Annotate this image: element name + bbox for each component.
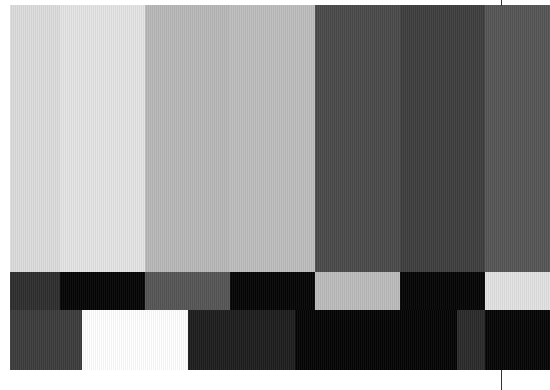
middle-bar-2 xyxy=(60,272,145,310)
registration-line-bottom xyxy=(501,370,502,390)
top-bar-5 xyxy=(315,5,400,272)
bottom-bar-2 xyxy=(82,310,188,370)
middle-bars-row xyxy=(10,272,550,310)
middle-bar-7 xyxy=(485,272,550,310)
top-bar-3 xyxy=(145,5,230,272)
bottom-bar-5 xyxy=(457,310,485,370)
middle-bar-1 xyxy=(10,272,60,310)
middle-bar-4 xyxy=(230,272,315,310)
middle-bar-5 xyxy=(315,272,400,310)
top-bar-1 xyxy=(10,5,60,272)
middle-bar-3 xyxy=(145,272,230,310)
middle-bar-6 xyxy=(400,272,485,310)
bottom-bar-1 xyxy=(10,310,82,370)
top-bar-4 xyxy=(230,5,315,272)
test-pattern xyxy=(10,5,550,370)
top-bars-row xyxy=(10,5,550,272)
top-bar-6 xyxy=(400,5,485,272)
top-bar-7 xyxy=(485,5,550,272)
bottom-bar-6 xyxy=(485,310,550,370)
bottom-bar-4 xyxy=(295,310,457,370)
bottom-bar-3 xyxy=(188,310,295,370)
registration-line-top xyxy=(501,0,502,6)
bottom-bars-row xyxy=(10,310,550,370)
top-bar-2 xyxy=(60,5,145,272)
